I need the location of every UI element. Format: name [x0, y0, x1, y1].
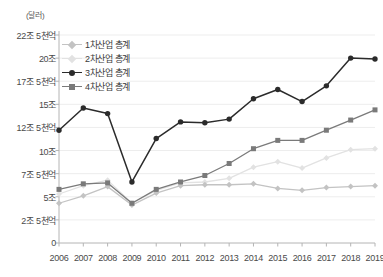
- data-point: [324, 83, 329, 88]
- legend-swatch-icon: [62, 81, 82, 92]
- data-point: [226, 116, 231, 121]
- data-point: [226, 182, 232, 188]
- data-point: [105, 111, 110, 116]
- legend-swatch-icon: [62, 53, 82, 64]
- legend-item-4[interactable]: 4차산업 총계: [62, 80, 130, 93]
- data-point: [275, 159, 281, 165]
- y-axis-tick-label: 17조 5천억: [0, 75, 56, 88]
- data-point: [154, 136, 159, 141]
- data-point: [129, 179, 134, 184]
- legend-swatch-icon: [62, 39, 82, 50]
- data-point: [275, 185, 281, 191]
- x-axis-tick-label: 2013: [220, 253, 239, 263]
- data-point: [299, 165, 305, 171]
- x-axis-tick-label: 2008: [98, 253, 117, 263]
- x-axis-tick-label: 2019: [366, 253, 383, 263]
- legend-item-2[interactable]: 2차산업 총계: [62, 52, 130, 65]
- legend-label: 1차산업 총계: [85, 38, 130, 51]
- data-point: [227, 161, 232, 166]
- x-axis-tick-label: 2017: [317, 253, 336, 263]
- y-axis-tick-label: 20조: [0, 52, 56, 65]
- data-point: [202, 173, 207, 178]
- x-axis-tick-label: 2011: [171, 253, 189, 263]
- chart-page: (달러) 02조 5천억5조7조 5천억10조12조 5천억15조17조 5천억…: [0, 0, 383, 277]
- y-axis-tick-label: 5조: [0, 190, 56, 203]
- data-point: [80, 193, 86, 199]
- line-chart-svg: [0, 0, 383, 277]
- data-point: [299, 99, 304, 104]
- data-point: [56, 191, 62, 197]
- legend-swatch-icon: [62, 67, 82, 78]
- data-point: [275, 138, 280, 143]
- x-axis-tick-label: 2006: [50, 253, 69, 263]
- data-point: [56, 200, 62, 206]
- data-point: [348, 55, 353, 60]
- series-1: [56, 181, 378, 208]
- x-axis-tick-labels: 2006200720082009201020112012201320142015…: [0, 253, 383, 273]
- legend-item-3[interactable]: 3차산업 총계: [62, 66, 130, 79]
- data-point: [348, 184, 354, 190]
- legend-label: 2차산업 총계: [85, 52, 130, 65]
- x-axis-tick-label: 2016: [293, 253, 312, 263]
- y-axis-tick-label: 12조 5천억: [0, 121, 56, 134]
- data-point: [129, 201, 134, 206]
- x-axis-tick-label: 2018: [341, 253, 360, 263]
- data-point: [56, 128, 61, 133]
- data-point: [323, 185, 329, 191]
- data-point: [154, 187, 159, 192]
- data-point: [178, 119, 183, 124]
- data-point: [250, 164, 256, 170]
- data-point: [275, 87, 280, 92]
- data-point: [373, 107, 378, 112]
- legend-label: 3차산업 총계: [85, 66, 130, 79]
- data-point: [105, 180, 110, 185]
- x-axis-tick-label: 2012: [195, 253, 214, 263]
- data-point: [178, 179, 183, 184]
- y-axis-tick-label: 15조: [0, 98, 56, 111]
- data-point: [348, 147, 354, 153]
- legend-marker-icon: [69, 70, 75, 76]
- data-point: [226, 175, 232, 181]
- data-point: [202, 120, 207, 125]
- data-point: [300, 138, 305, 143]
- data-point: [372, 183, 378, 189]
- legend-item-1[interactable]: 1차산업 총계: [62, 38, 130, 51]
- legend-marker-icon: [69, 84, 75, 90]
- data-point: [372, 56, 377, 61]
- data-point: [323, 155, 329, 161]
- data-point: [324, 128, 329, 133]
- data-point: [348, 118, 353, 123]
- x-axis-tick-label: 2014: [244, 253, 263, 263]
- y-axis-tick-label: 22조 5천억: [0, 29, 56, 42]
- y-axis-tick-labels: 02조 5천억5조7조 5천억10조12조 5천억15조17조 5천억20조22…: [0, 0, 56, 277]
- x-axis-tick-label: 2015: [268, 253, 287, 263]
- x-axis-tick-label: 2010: [147, 253, 166, 263]
- legend-marker-icon: [68, 54, 76, 62]
- y-axis-tick-label: 7조 5천억: [0, 167, 56, 180]
- data-point: [250, 181, 256, 187]
- legend-label: 4차산업 총계: [85, 80, 130, 93]
- y-axis-tick-label: 10조: [0, 144, 56, 157]
- legend-marker-icon: [68, 40, 76, 48]
- chart-legend: 1차산업 총계2차산업 총계3차산업 총계4차산업 총계: [62, 38, 130, 93]
- y-axis-tick-label: 0: [0, 238, 56, 248]
- data-point: [57, 187, 62, 192]
- data-point: [81, 105, 86, 110]
- data-point: [251, 146, 256, 151]
- data-point: [81, 181, 86, 186]
- y-axis-tick-label: 2조 5천억: [0, 213, 56, 226]
- x-axis-tick-label: 2009: [123, 253, 142, 263]
- x-axis-tick-label: 2007: [74, 253, 93, 263]
- data-point: [251, 96, 256, 101]
- plot-area: [0, 0, 383, 277]
- data-point: [299, 187, 305, 193]
